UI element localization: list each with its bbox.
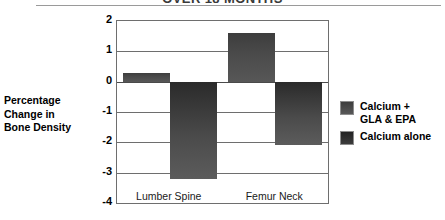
legend-label-0-line-1: Calcium + xyxy=(360,100,410,112)
legend-label-0: Calcium + GLA & EPA xyxy=(360,100,416,125)
y-axis-ticks: 210-1-2-3-4 xyxy=(92,20,112,204)
category-label-1: Femur Neck xyxy=(224,190,324,202)
y-axis-label-line-3: Bone Density xyxy=(4,121,96,135)
legend-label-1-line-1: Calcium alone xyxy=(360,130,431,142)
plot-area xyxy=(116,20,329,204)
y-tick-label--3: -3 xyxy=(94,166,112,177)
title-divider xyxy=(36,5,441,6)
bar-0-0 xyxy=(123,73,170,82)
bar-1-0 xyxy=(228,33,275,82)
y-tick-label-2: 2 xyxy=(94,14,112,25)
gridline--3 xyxy=(117,173,328,174)
bar-1-1 xyxy=(275,82,322,146)
y-tick-label--1: -1 xyxy=(94,105,112,116)
bar-0-1 xyxy=(170,82,217,179)
y-axis-label-line-2: Change in xyxy=(4,108,96,122)
y-axis-label: Percentage Change in Bone Density xyxy=(4,94,96,135)
y-tick-label-0: 0 xyxy=(94,75,112,86)
legend-swatch-icon-0 xyxy=(340,101,354,115)
gridline-1 xyxy=(117,51,328,52)
y-tick-label--2: -2 xyxy=(94,135,112,146)
legend-swatch-icon-1 xyxy=(340,131,354,145)
chart-legend: Calcium + GLA & EPA Calcium alone xyxy=(340,100,444,150)
y-tick-label--4: -4 xyxy=(94,196,112,207)
legend-label-1: Calcium alone xyxy=(360,130,431,143)
y-axis-label-line-1: Percentage xyxy=(4,94,96,108)
legend-item-1[interactable]: Calcium alone xyxy=(340,130,444,145)
legend-label-0-line-2: GLA & EPA xyxy=(360,113,416,125)
legend-item-0[interactable]: Calcium + GLA & EPA xyxy=(340,100,444,125)
y-tick-label-1: 1 xyxy=(94,44,112,55)
category-label-0: Lumber Spine xyxy=(119,190,219,202)
